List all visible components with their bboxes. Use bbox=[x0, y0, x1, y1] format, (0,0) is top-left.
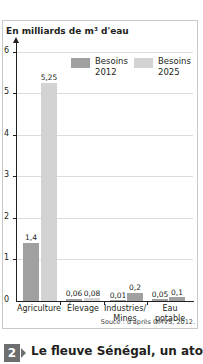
y-axis-arrow-icon bbox=[13, 37, 19, 43]
y-tick-label: 0 bbox=[4, 295, 12, 304]
value-label: 0,01 bbox=[106, 291, 130, 300]
value-label: 1,4 bbox=[19, 233, 43, 242]
value-label: 0,08 bbox=[80, 289, 104, 298]
bar-agriculture-2012 bbox=[23, 243, 39, 301]
value-label: 5,25 bbox=[37, 73, 61, 82]
value-label: 0,1 bbox=[165, 288, 189, 297]
y-tick-label: 2 bbox=[4, 212, 12, 221]
y-tick-label: 3 bbox=[4, 170, 12, 179]
y-tick-label: 5 bbox=[4, 87, 12, 96]
legend-label-2012: Besoins2012 bbox=[95, 56, 128, 78]
y-axis bbox=[16, 40, 17, 301]
y-axis-label: En milliards de m³ d'eau bbox=[6, 26, 129, 36]
legend-swatch-2025 bbox=[134, 58, 153, 68]
legend-label-2025: Besoins2025 bbox=[158, 56, 191, 78]
category-label: Élevage bbox=[62, 304, 104, 314]
y-tick-label: 4 bbox=[4, 129, 12, 138]
gridline bbox=[17, 52, 193, 53]
figure-caption: Le fleuve Sénégal, un atout bbox=[31, 344, 203, 358]
category-label: Agriculture bbox=[16, 304, 62, 314]
bar-agriculture-2025 bbox=[41, 83, 57, 301]
source-note: Souce : d'après OMVS, 2012. bbox=[101, 318, 195, 326]
x-axis bbox=[16, 301, 194, 302]
chevron-right-icon bbox=[21, 348, 26, 358]
figure-number: 2 bbox=[4, 344, 20, 362]
y-tick-label: 6 bbox=[4, 46, 12, 55]
y-tick-label: 1 bbox=[4, 253, 12, 262]
value-label: 0,2 bbox=[123, 283, 147, 292]
legend-swatch-2012 bbox=[71, 58, 90, 68]
